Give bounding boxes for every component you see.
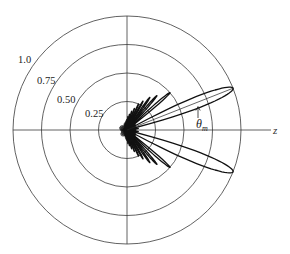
ring-label-0-25: 0.25 bbox=[85, 108, 103, 119]
theta-m-label: θm bbox=[196, 117, 208, 133]
ring-label-0-50: 0.50 bbox=[57, 94, 75, 105]
z-axis-label: z bbox=[272, 124, 278, 136]
ring-label-1-0: 1.0 bbox=[18, 54, 31, 65]
ring-label-0-75: 0.75 bbox=[37, 75, 55, 86]
polar-pattern-chart: 1.0 0.75 0.50 0.25 z θm bbox=[0, 0, 290, 254]
pattern-core bbox=[124, 117, 136, 143]
